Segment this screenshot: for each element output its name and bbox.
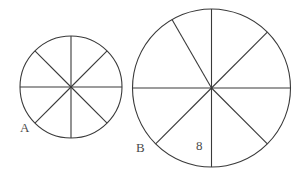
radius-line bbox=[35, 51, 71, 87]
radius-line bbox=[71, 51, 107, 87]
diagram: A B 8 bbox=[0, 0, 304, 177]
radius-line bbox=[212, 88, 268, 144]
radius-line bbox=[156, 88, 212, 144]
radius-line bbox=[172, 20, 212, 88]
circle-a bbox=[20, 36, 122, 138]
circle-a-label: A bbox=[20, 120, 30, 135]
radius-line bbox=[35, 87, 71, 123]
radius-line bbox=[212, 32, 268, 88]
circle-b bbox=[133, 9, 291, 167]
radius-line bbox=[71, 87, 107, 123]
circle-b-label: B bbox=[136, 140, 145, 155]
sector-label: 8 bbox=[196, 138, 203, 153]
